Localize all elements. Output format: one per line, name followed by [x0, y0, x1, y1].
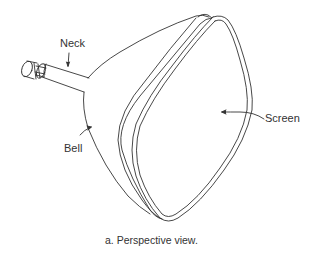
- screen-label: Screen: [265, 113, 300, 124]
- screen-panel: [132, 16, 252, 221]
- neck-tube: [42, 64, 89, 92]
- bell-outline: [84, 15, 210, 214]
- bell-leader-arrow: [80, 126, 92, 135]
- neck-leader-arrow: [67, 53, 70, 67]
- neck-base-connector: [20, 60, 48, 80]
- figure-caption: a. Perspective view.: [105, 235, 198, 246]
- bell-label: Bell: [64, 143, 82, 154]
- neck-label: Neck: [60, 38, 85, 49]
- screen-leader-arrow: [222, 110, 265, 119]
- crt-perspective-diagram: [0, 0, 319, 254]
